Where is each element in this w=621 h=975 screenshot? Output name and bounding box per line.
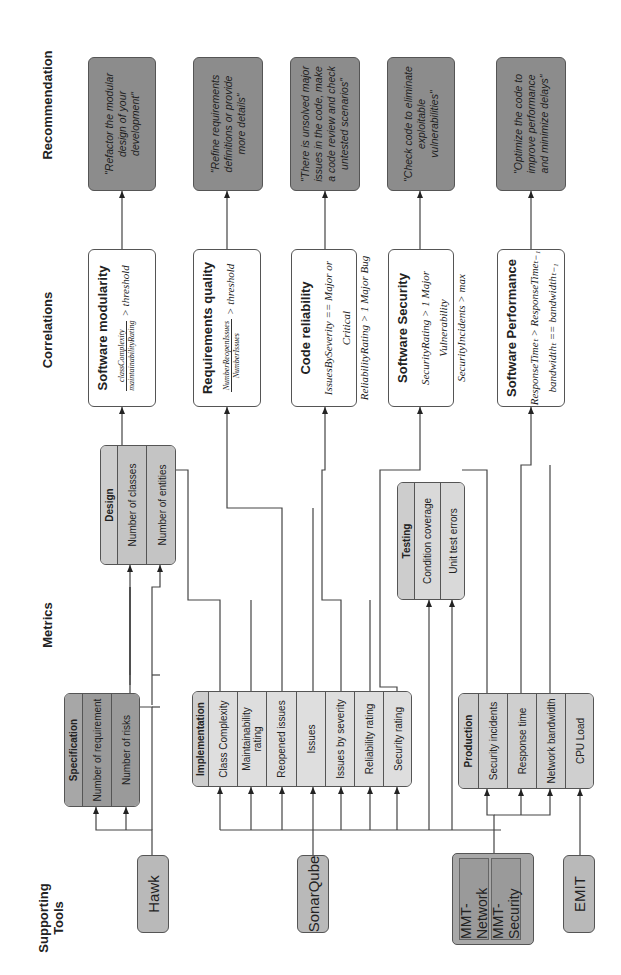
correlation-title: Code reliability: [298, 281, 313, 374]
correlation-formula: NumberReopenIssuesNumberIssues> threshol…: [221, 264, 241, 393]
metric-group-production: Production Security incidents Response t…: [458, 693, 594, 789]
tool-mmt-security: MMT-Security: [491, 858, 521, 940]
correlation-formula-line-1: IssuesBySeverity == Major or Critical: [319, 250, 355, 406]
group-title: Design: [101, 446, 118, 564]
tool-mmt-group: MMT-Network MMT-Security: [452, 853, 534, 945]
correlation-title: Requirements quality: [200, 262, 215, 394]
recommendation-modularity: "Refactor the modular design of your dev…: [88, 57, 156, 191]
correlation-formula-line-2: bandwidthₜ == bandwidthₜ₋₁: [543, 263, 561, 392]
metric-issues-by-severity: Issues by severity: [326, 692, 355, 786]
correlation-formula-line-2: ReliabilityRating > 1 Major Bug: [355, 256, 373, 400]
correlation-formula: classComplexitymaintainabilityRating> th…: [116, 265, 136, 391]
group-title: Testing: [398, 483, 415, 599]
metric-cpu-load: CPU Load: [566, 694, 594, 788]
correlation-requirements-quality: Requirements quality NumberReopenIssuesN…: [193, 249, 261, 407]
metric-number-of-entities: Number of entities: [147, 446, 176, 564]
correlation-software-security: Software Security SecurityRating > 1 Maj…: [388, 249, 454, 407]
correlation-title: Software Performance: [504, 259, 519, 397]
group-title: Specification: [65, 694, 83, 806]
metric-response-time: Response time: [508, 694, 537, 788]
diagram-canvas: Supporting Tools Metrics Correlations Re…: [0, 0, 621, 975]
metric-number-of-classes: Number of classes: [118, 446, 147, 564]
formula-denominator: NumberIssues: [232, 319, 241, 392]
group-title: Implementation: [193, 692, 209, 786]
metric-number-of-risks: Number of risks: [112, 694, 140, 806]
group-title: Production: [459, 694, 479, 788]
correlation-formula-line-2: SecurityIncidents > max: [452, 274, 470, 382]
recommendation-requirements: "Refine requirements definitions or prov…: [193, 57, 263, 191]
recommendation-performance: "Optimize the code to improve performanc…: [496, 57, 566, 191]
metric-security-rating: Security rating: [384, 692, 412, 786]
header-correlations: Correlations: [40, 275, 55, 385]
header-metrics: Metrics: [40, 585, 55, 665]
tool-hawk: Hawk: [137, 855, 169, 933]
metric-issues: Issues: [297, 692, 326, 786]
header-recommendation: Recommendation: [40, 35, 55, 175]
tool-emit: EMIT: [563, 855, 595, 933]
correlation-title: Software Security: [395, 273, 410, 383]
metric-security-incidents: Security incidents: [479, 694, 508, 788]
formula-numerator: NumberReopenIssues: [222, 319, 232, 392]
metric-reopened-issues: Reopened issues: [267, 692, 297, 786]
metric-group-design: Design Number of classes Number of entit…: [100, 445, 176, 565]
header-supporting-tools: Supporting Tools: [36, 873, 66, 963]
metric-number-of-requirement: Number of requirement: [83, 694, 112, 806]
correlation-software-performance: Software Performance ResponseTimeₜ > Res…: [497, 249, 565, 407]
metric-reliability-rating: Reliability rating: [355, 692, 384, 786]
metric-maintainability-rating: Maintainability rating: [238, 692, 267, 786]
metric-group-implementation: Implementation Class Complexity Maintain…: [192, 691, 412, 787]
correlation-formula-line-1: ResponseTimeₜ > ResponseTimeₜ₋₁: [525, 251, 543, 406]
formula-denominator: maintainabilityRating: [127, 321, 136, 391]
correlation-title: Software modularity: [95, 266, 110, 391]
metric-group-specification: Specification Number of requirement Numb…: [64, 693, 140, 807]
metric-condition-coverage: Condition coverage: [415, 483, 441, 599]
recommendation-security: "Check code to eliminate exploitable vul…: [387, 57, 455, 191]
tool-sonarqube: SonarQube: [297, 855, 329, 933]
metric-network-bandwidth: Network bandwidth: [537, 694, 566, 788]
metric-class-complexity: Class Complexity: [209, 692, 238, 786]
formula-rest: > threshold: [119, 265, 131, 316]
correlation-software-modularity: Software modularity classComplexitymaint…: [88, 249, 156, 407]
tool-mmt-network: MMT-Network: [459, 858, 489, 940]
correlation-code-reliability: Code reliability IssuesBySeverity == Maj…: [291, 249, 357, 407]
correlation-formula-line-1: SecurityRating > 1 Major Vulnerability: [416, 250, 452, 406]
formula-numerator: classComplexity: [117, 321, 127, 391]
metric-unit-test-errors: Unit test errors: [441, 483, 465, 599]
recommendation-reliability: "There is unsolved major issues in the c…: [290, 57, 360, 191]
formula-rest: > threshold: [224, 264, 236, 315]
metric-group-testing: Testing Condition coverage Unit test err…: [397, 482, 465, 600]
